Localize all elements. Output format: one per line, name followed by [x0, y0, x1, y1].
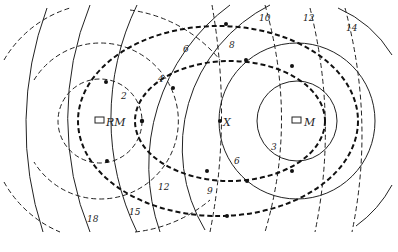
label-15: 15 [129, 207, 141, 217]
station-M-marker [292, 117, 301, 123]
label-4: 4 [157, 74, 164, 84]
diagram-canvas: RM M X 2 4 6 8 10 12 14 3 6 9 12 15 18 [0, 0, 398, 252]
intersection-points [104, 22, 294, 218]
label-6-top: 6 [183, 44, 189, 54]
label-12-top: 12 [303, 13, 315, 23]
label-2: 2 [120, 91, 127, 101]
label-3: 3 [271, 142, 277, 152]
point-X-label: X [222, 116, 232, 129]
label-9: 9 [207, 186, 213, 196]
station-RM-marker [95, 117, 104, 123]
station-M-label: M [303, 116, 316, 129]
label-8: 8 [229, 40, 235, 50]
label-14: 14 [346, 23, 358, 33]
label-6-bottom: 6 [234, 156, 240, 166]
label-18: 18 [87, 214, 99, 224]
station-RM-label: RM [105, 116, 126, 129]
label-12-bottom: 12 [158, 182, 170, 192]
label-10: 10 [259, 13, 271, 23]
